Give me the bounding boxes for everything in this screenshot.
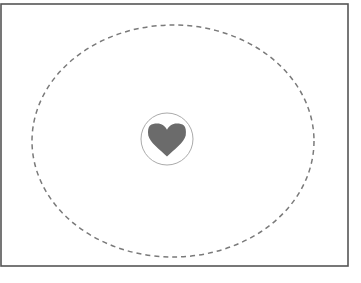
heart-icon <box>148 124 186 157</box>
diagram-svg <box>0 0 361 283</box>
heart-icon-path <box>148 124 186 157</box>
diagram-canvas <box>0 0 361 283</box>
